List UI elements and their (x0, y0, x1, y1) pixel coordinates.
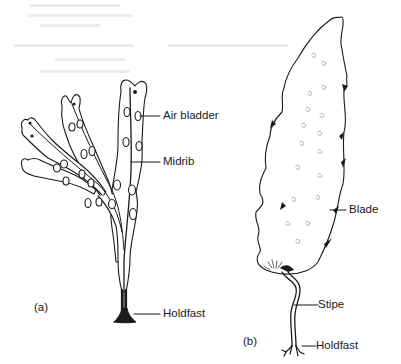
label-blade: Blade (349, 204, 378, 216)
label-midrib: Midrib (163, 156, 194, 168)
holdfast-b (282, 346, 304, 356)
holdfast-a (114, 308, 136, 323)
label-stipe: Stipe (318, 299, 344, 311)
stipe-b (282, 272, 296, 346)
panel-label-a: (a) (34, 302, 48, 314)
label-air-bladder: Air bladder (163, 110, 219, 122)
label-holdfast-b: Holdfast (316, 340, 358, 352)
panel-label-b: (b) (243, 336, 257, 348)
label-holdfast-a: Holdfast (163, 308, 205, 320)
seaweed-a (21, 80, 160, 323)
